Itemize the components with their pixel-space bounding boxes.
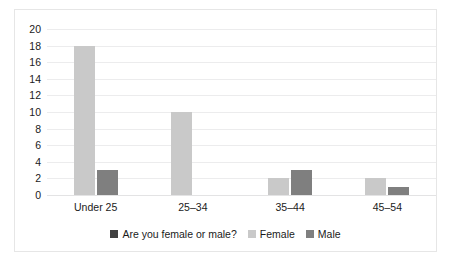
legend-item[interactable]: Female xyxy=(248,229,295,240)
bar-female xyxy=(268,178,289,195)
legend-label: Female xyxy=(260,229,295,240)
bar-group: 45–54 xyxy=(365,29,409,195)
y-axis-tick-label: 4 xyxy=(35,157,41,168)
y-axis-tick-label: 16 xyxy=(29,57,41,68)
bar-group: Under 25 xyxy=(74,29,118,195)
y-axis-tick-label: 0 xyxy=(35,190,41,201)
bar-male xyxy=(388,187,409,195)
legend-item[interactable]: Are you female or male? xyxy=(110,229,236,240)
y-axis-tick-label: 14 xyxy=(29,74,41,85)
chart-frame: 20181614121086420 Under 2525–3435–4445–5… xyxy=(14,9,437,252)
y-axis-tick-label: 10 xyxy=(29,107,41,118)
y-axis-tick-label: 12 xyxy=(29,90,41,101)
bar-groups: Under 2525–3435–4445–54 xyxy=(47,29,436,195)
bar-female xyxy=(74,46,95,195)
x-axis-tick-label: Under 25 xyxy=(74,202,117,213)
chart-legend: Are you female or male?FemaleMale xyxy=(15,229,436,240)
x-axis-tick-label: 25–34 xyxy=(178,202,207,213)
y-axis-tick-label: 18 xyxy=(29,40,41,51)
legend-swatch-icon xyxy=(306,230,314,238)
bar-female xyxy=(365,178,386,195)
x-axis-tick-label: 35–44 xyxy=(276,202,305,213)
bar-group: 35–44 xyxy=(268,29,312,195)
legend-label: Male xyxy=(318,229,341,240)
legend-swatch-icon xyxy=(110,230,118,238)
legend-swatch-icon xyxy=(248,230,256,238)
legend-item[interactable]: Male xyxy=(306,229,341,240)
x-axis-tick-label: 45–54 xyxy=(373,202,402,213)
plot-area: 20181614121086420 Under 2525–3435–4445–5… xyxy=(47,29,436,195)
legend-label: Are you female or male? xyxy=(122,229,236,240)
y-axis-tick-label: 2 xyxy=(35,173,41,184)
bar-female xyxy=(171,112,192,195)
bar-male xyxy=(291,170,312,195)
bar-male xyxy=(97,170,118,195)
y-axis-tick-label: 8 xyxy=(35,123,41,134)
y-axis-tick-label: 6 xyxy=(35,140,41,151)
gridline xyxy=(47,195,436,196)
bar-group: 25–34 xyxy=(171,29,215,195)
y-axis-tick-label: 20 xyxy=(29,24,41,35)
